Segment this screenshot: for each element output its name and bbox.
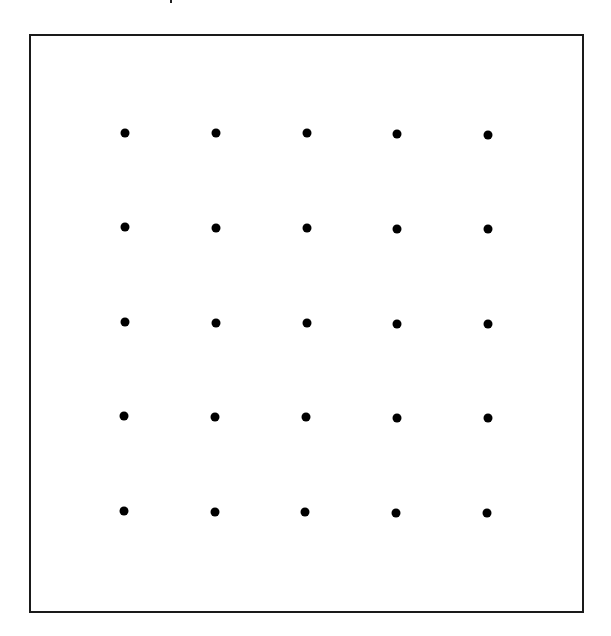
grid-dot-r2-c4 bbox=[393, 225, 402, 234]
grid-dot-r3-c4 bbox=[393, 320, 402, 329]
grid-dot-r4-c3 bbox=[302, 413, 311, 422]
grid-dot-r1-c3 bbox=[303, 129, 312, 138]
grid-dot-r3-c1 bbox=[121, 318, 130, 327]
grid-dot-r4-c5 bbox=[484, 414, 493, 423]
grid-dot-r5-c2 bbox=[211, 508, 220, 517]
grid-dot-r3-c2 bbox=[212, 319, 221, 328]
grid-dot-r5-c3 bbox=[301, 508, 310, 517]
grid-dot-r5-c1 bbox=[120, 507, 129, 516]
grid-dot-r2-c1 bbox=[121, 223, 130, 232]
cropped-title-fragment bbox=[170, 0, 172, 3]
grid-dot-r5-c5 bbox=[483, 509, 492, 518]
grid-dot-r2-c3 bbox=[303, 224, 312, 233]
grid-dot-r1-c1 bbox=[121, 129, 130, 138]
grid-dot-r4-c4 bbox=[393, 414, 402, 423]
grid-dot-r4-c2 bbox=[211, 413, 220, 422]
grid-dot-r2-c5 bbox=[484, 225, 493, 234]
grid-dot-r2-c2 bbox=[212, 224, 221, 233]
grid-dot-r1-c4 bbox=[393, 130, 402, 139]
grid-dot-r1-c5 bbox=[484, 131, 493, 140]
grid-dot-r5-c4 bbox=[392, 509, 401, 518]
grid-dot-r4-c1 bbox=[120, 412, 129, 421]
grid-dot-r3-c3 bbox=[303, 319, 312, 328]
grid-dot-r3-c5 bbox=[484, 320, 493, 329]
grid-dot-r1-c2 bbox=[212, 129, 221, 138]
